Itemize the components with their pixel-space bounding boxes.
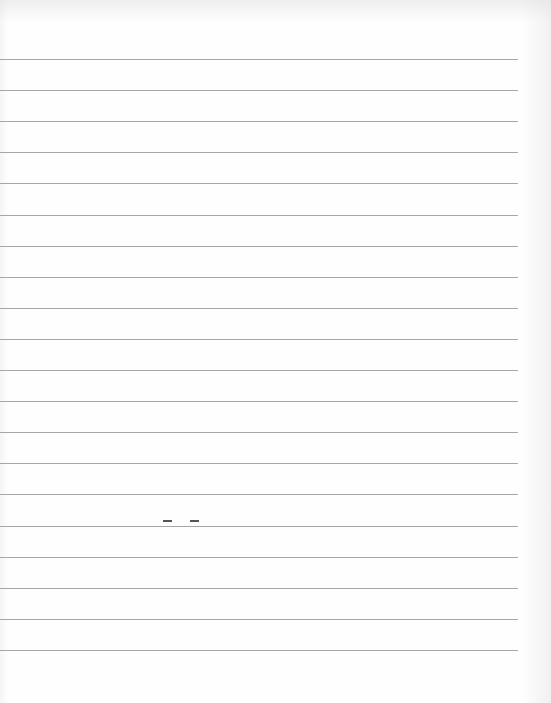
pen-mark	[190, 520, 199, 522]
ruled-line	[0, 215, 518, 216]
ruled-line	[0, 339, 518, 340]
ruled-line	[0, 432, 518, 433]
ruled-line	[0, 619, 518, 620]
ruled-line	[0, 526, 518, 527]
pen-mark	[163, 520, 172, 522]
ruled-line	[0, 152, 518, 153]
ruled-line	[0, 463, 518, 464]
lined-paper-sheet	[0, 0, 551, 703]
ruled-line	[0, 494, 518, 495]
ruled-line	[0, 59, 518, 60]
ruled-line	[0, 557, 518, 558]
ruled-line	[0, 183, 518, 184]
ruled-line	[0, 401, 518, 402]
ruled-line	[0, 246, 518, 247]
ruled-line	[0, 370, 518, 371]
ruled-line	[0, 650, 518, 651]
ruled-line	[0, 308, 518, 309]
ruled-line	[0, 90, 518, 91]
ruled-line	[0, 277, 518, 278]
ruled-line	[0, 588, 518, 589]
ruled-line	[0, 121, 518, 122]
